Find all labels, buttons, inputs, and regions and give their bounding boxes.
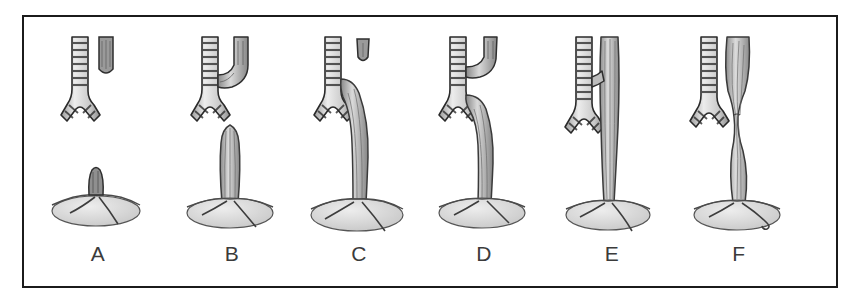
panel-b-illustration [172, 17, 292, 245]
panel-d-illustration [424, 17, 544, 245]
stomach [52, 168, 140, 227]
distal-blind-nub [89, 168, 103, 196]
panel-c-label: C [299, 243, 419, 264]
proximal-fistula [466, 37, 497, 78]
upper-esophageal-pouch [99, 37, 113, 73]
stomach [311, 199, 403, 231]
panel-e: E [552, 17, 672, 286]
panel-f: F [679, 17, 799, 286]
panel-c: C [299, 17, 419, 286]
figure-root: A [0, 0, 860, 304]
cartilage-rings [73, 43, 87, 85]
cartilage-rings [451, 43, 465, 85]
trachea [61, 37, 100, 121]
distal-esophageal-segment [220, 125, 240, 203]
panel-c-illustration [299, 17, 419, 245]
panel-a-label: A [38, 243, 158, 264]
panel-d-label: D [424, 243, 544, 264]
stomach [439, 198, 525, 228]
panel-f-label: F [679, 243, 799, 264]
panel-d: D [424, 17, 544, 286]
stomach [694, 200, 780, 230]
panel-a: A [38, 17, 158, 286]
distal-fistula-segment [341, 79, 368, 203]
figure-frame: A [22, 15, 838, 288]
panel-e-label: E [552, 243, 672, 264]
panel-a-illustration [38, 17, 158, 245]
panel-row: A [24, 17, 836, 286]
cartilage-rings [203, 43, 217, 85]
panel-b-label: B [172, 243, 292, 264]
panel-f-illustration [679, 17, 799, 245]
stomach [566, 200, 650, 231]
cartilage-rings [326, 43, 340, 85]
proximal-fistula [218, 37, 248, 88]
panel-b: B [172, 17, 292, 286]
esophagus [600, 37, 619, 203]
upper-esophageal-pouch [357, 39, 369, 61]
trachea [690, 37, 729, 127]
stomach [187, 198, 273, 228]
distal-fistula-segment [466, 95, 493, 203]
panel-e-illustration [552, 17, 672, 245]
